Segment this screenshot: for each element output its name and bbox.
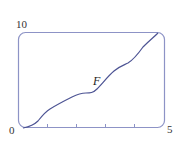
chart-plot-area — [0, 0, 180, 141]
curve-f — [23, 33, 158, 128]
